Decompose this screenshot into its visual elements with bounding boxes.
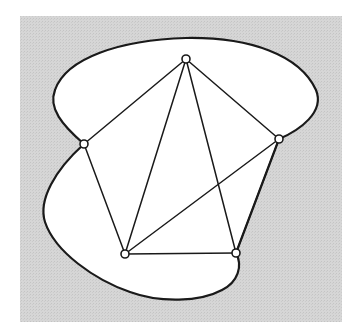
vertex-bottom-left bbox=[121, 250, 129, 258]
vertex-left bbox=[80, 140, 88, 148]
edge-D-E bbox=[125, 253, 236, 254]
vertex-right bbox=[275, 135, 283, 143]
graph-diagram bbox=[0, 0, 362, 333]
vertex-top bbox=[182, 55, 190, 63]
vertex-bottom-right bbox=[232, 249, 240, 257]
